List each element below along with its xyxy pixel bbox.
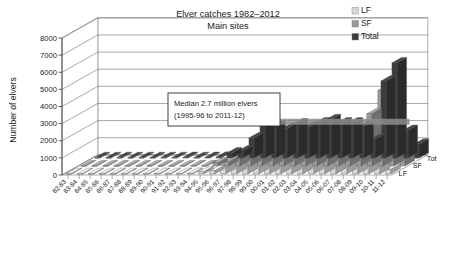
legend-swatch-lf (352, 8, 359, 15)
bar-front-face (100, 174, 105, 175)
bar-side-face (364, 121, 374, 158)
bar-front-face (106, 158, 111, 159)
bar-front-face (210, 171, 215, 174)
bar-front-face (161, 158, 166, 159)
legend-swatch-sf (352, 21, 359, 28)
bar-side-face (408, 125, 418, 158)
bar-front-face (177, 173, 182, 174)
bar-front-face (125, 166, 130, 167)
median-annotation: Median 2.7 million elvers(1995-96 to 201… (168, 93, 280, 126)
bar-front-face (133, 174, 138, 175)
bar-front-face (191, 166, 196, 167)
bar-front-face (144, 174, 149, 175)
bar-front-face (166, 174, 171, 175)
bar-front-face (95, 158, 100, 159)
bar-side-face (386, 76, 396, 158)
y-axis-title: Number of elvers (8, 77, 18, 142)
bar-front-face (128, 158, 133, 159)
bar-front-face (89, 174, 94, 175)
bar-front-face (205, 157, 210, 158)
legend-label-sf: SF (361, 18, 372, 28)
y-axis-tick-label: 0 (53, 171, 57, 180)
x-axis-tick-label-11-12: 11-12 (370, 178, 386, 194)
depth-axis-label-tot: Tot (427, 154, 437, 163)
y-axis-tick-label: 6000 (40, 68, 57, 77)
legend-swatch-total (352, 34, 359, 41)
bar-front-face (199, 172, 204, 174)
bar-front-face (180, 166, 185, 167)
bar-front-face (194, 158, 199, 159)
bar-front-face (67, 174, 72, 175)
bar-front-face (117, 158, 122, 159)
y-axis-tick-label: 7000 (40, 51, 57, 60)
depth-axis-label-lf: LF (399, 169, 408, 178)
y-axis-tick-label: 3000 (40, 119, 57, 128)
bar-front-face (139, 158, 144, 159)
bar-front-face (147, 166, 152, 167)
bar-front-face (103, 166, 108, 167)
bar-front-face (183, 157, 188, 158)
bar-side-face (287, 123, 297, 158)
bar-front-face (172, 158, 177, 159)
bar-front-face (169, 166, 174, 167)
x-axis-labels-group: 82-8383-8484-8585-8686-8787-8888-8989-90… (51, 175, 387, 195)
bar-front-face (122, 174, 127, 175)
bar-side-face (397, 57, 407, 158)
annotation-box (168, 93, 280, 126)
bar-front-face (158, 166, 163, 167)
elver-catches-3d-bar-chart: 010002000300040005000600070008000Number … (0, 0, 462, 253)
bar-front-face (114, 166, 119, 167)
bar-front-face (81, 166, 86, 167)
annotation-line-2: (1995-96 to 2011-12) (174, 111, 245, 120)
bar-front-face (155, 173, 160, 174)
legend-label-total: Total (361, 31, 379, 41)
bar-side-face (309, 122, 319, 159)
chart-figure: 010002000300040005000600070008000Number … (0, 0, 462, 253)
chart-subtitle: Main sites (207, 21, 249, 31)
bar-front-face (216, 157, 221, 158)
y-axis-tick-label: 8000 (40, 34, 57, 43)
bar-front-face (202, 166, 207, 167)
y-axis-tick-label: 4000 (40, 102, 57, 111)
depth-axis-label-sf: SF (413, 161, 423, 170)
bar-front-face (78, 174, 83, 175)
y-axis-tick-label: 5000 (40, 85, 57, 94)
bar-front-face (111, 174, 116, 175)
bar-front-face (188, 173, 193, 174)
bar-front-face (136, 166, 141, 167)
bar-front-face (150, 158, 155, 159)
chart-title: Elver catches 1982–2012 (176, 9, 280, 19)
y-axis-tick-label: 1000 (40, 154, 57, 163)
legend-label-lf: LF (361, 5, 371, 15)
bar-front-face (213, 163, 218, 166)
bar-front-face (92, 166, 97, 167)
y-axis-ticks-group: 010002000300040005000600070008000 (40, 34, 62, 180)
annotation-line-1: Median 2.7 million elvers (174, 99, 258, 108)
y-axis-tick-label: 2000 (40, 136, 57, 145)
